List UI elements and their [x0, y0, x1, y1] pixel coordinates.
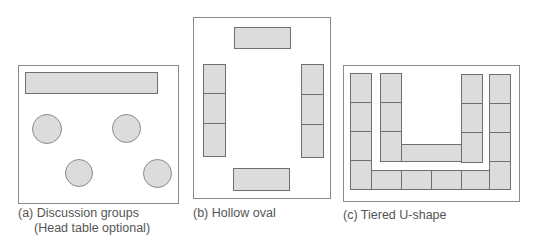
inner-right-table: [461, 103, 483, 133]
discussion-groups-room: [18, 65, 179, 204]
outer-right-table: [489, 103, 511, 133]
outer-right-table: [489, 161, 511, 190]
caption-tiered-u-shape: (c) Tiered U-shape: [343, 208, 447, 223]
outer-left-table: [350, 102, 372, 132]
tiered-u-shape-room: [343, 65, 520, 202]
inner-bottom-table: [401, 144, 462, 162]
head-table: [25, 72, 158, 94]
outer-left-table: [350, 73, 372, 103]
outer-left-table: [350, 131, 372, 161]
caption-hollow-oval: (b) Hollow oval: [193, 206, 276, 221]
inner-right-table: [461, 74, 483, 104]
caption-head-table-optional: (Head table optional): [34, 221, 150, 236]
round-table: [65, 159, 93, 187]
round-table: [143, 159, 172, 188]
bottom-table: [233, 168, 290, 191]
left-table: [203, 123, 226, 157]
outer-right-table: [489, 132, 511, 162]
outer-bottom-table: [461, 170, 490, 190]
inner-right-table: [461, 132, 483, 163]
outer-bottom-table: [401, 170, 432, 190]
inner-left-table: [380, 102, 402, 132]
outer-left-table: [350, 160, 372, 190]
inner-left-table: [380, 73, 402, 103]
left-table: [203, 93, 226, 124]
round-table: [112, 114, 141, 143]
right-table: [301, 94, 324, 125]
caption-discussion-groups: (a) Discussion groups: [18, 206, 139, 221]
outer-right-table: [489, 74, 511, 104]
hollow-oval-room: [193, 17, 331, 199]
outer-bottom-table: [431, 170, 462, 190]
left-table: [203, 64, 226, 94]
top-table: [234, 27, 291, 49]
right-table: [301, 124, 324, 158]
inner-left-table: [380, 131, 402, 162]
round-table: [32, 114, 62, 144]
outer-bottom-table: [371, 170, 402, 190]
right-table: [301, 64, 324, 95]
